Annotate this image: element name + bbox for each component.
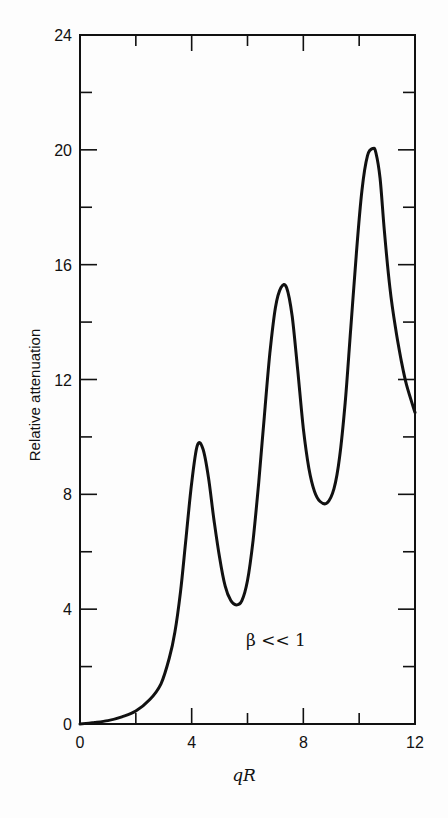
x-tick-label: 12	[406, 734, 424, 751]
tick-labels: 0481204812162024	[54, 27, 424, 751]
x-axis-label: qR	[232, 765, 256, 785]
y-tick-label: 20	[54, 142, 72, 159]
axis-ticks	[80, 35, 415, 724]
x-tick-label: 8	[299, 734, 308, 751]
x-tick-label: 0	[76, 734, 85, 751]
plot-frame	[80, 35, 415, 724]
x-tick-label: 4	[187, 734, 196, 751]
y-axis-label: Relative attenuation	[26, 329, 43, 462]
y-tick-label: 24	[54, 27, 72, 44]
y-tick-label: 12	[54, 372, 72, 389]
y-tick-label: 4	[63, 601, 72, 618]
y-tick-label: 8	[63, 486, 72, 503]
beta-annotation: β << 1	[246, 630, 306, 650]
y-tick-label: 0	[63, 716, 72, 733]
y-tick-label: 16	[54, 257, 72, 274]
chart: 0481204812162024 Relative attenuation qR…	[0, 0, 448, 818]
